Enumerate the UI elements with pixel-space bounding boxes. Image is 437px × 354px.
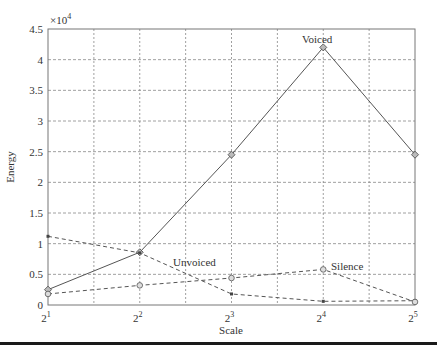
marker-silence xyxy=(229,275,235,281)
marker-silence xyxy=(137,283,143,289)
y-tick-label: 3.5 xyxy=(29,84,43,96)
y-axis-label: Energy xyxy=(4,151,16,183)
x-axis-ticks: 2122232425 xyxy=(41,310,418,324)
x-tick-label: 22 xyxy=(133,310,143,324)
y-multiplier: ×104 xyxy=(50,12,71,26)
marker-unvoiced xyxy=(230,292,233,295)
y-tick-label: 0.5 xyxy=(29,268,43,280)
marker-unvoiced xyxy=(138,251,141,254)
annotation-unvoiced: Unvoiced xyxy=(173,256,216,268)
x-tick-label: 24 xyxy=(317,310,327,324)
y-tick-label: 2.5 xyxy=(29,146,43,158)
x-tick-label: 23 xyxy=(225,310,235,324)
y-tick-label: 0 xyxy=(38,299,44,311)
y-tick-label: 3 xyxy=(38,115,44,127)
x-tick-label: 21 xyxy=(41,310,51,324)
x-axis-label: Scale xyxy=(219,324,243,336)
y-tick-label: 1.5 xyxy=(29,207,43,219)
y-tick-label: 4 xyxy=(38,54,44,66)
marker-unvoiced xyxy=(322,300,325,303)
energy-scale-chart: 00.511.522.533.544.5 2122232425 ×104 Ene… xyxy=(0,0,437,354)
marker-silence xyxy=(45,291,51,297)
y-axis-ticks: 00.511.522.533.544.5 xyxy=(29,23,43,311)
marker-silence xyxy=(320,267,326,273)
y-tick-label: 4.5 xyxy=(29,23,43,35)
bottom-rule xyxy=(0,342,437,345)
marker-silence xyxy=(412,299,418,305)
annotation-voiced: Voiced xyxy=(302,33,333,45)
annotation-silence: Silence xyxy=(331,260,363,272)
y-tick-label: 1 xyxy=(38,238,44,250)
x-tick-label: 25 xyxy=(408,310,418,324)
y-tick-label: 2 xyxy=(38,176,44,188)
marker-unvoiced xyxy=(47,235,50,238)
